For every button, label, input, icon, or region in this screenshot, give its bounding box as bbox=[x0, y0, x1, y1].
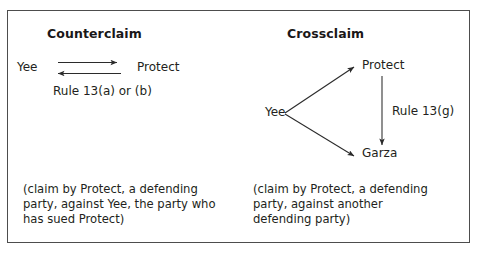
edge-label-rule-13a-or-b: Rule 13(a) or (b) bbox=[53, 84, 152, 98]
diagram-figure: Counterclaim Yee Protect Rule 13(a) or (… bbox=[0, 0, 480, 263]
caption-counterclaim: (claim by Protect, a defending party, ag… bbox=[23, 182, 238, 228]
node-label-protect-crossclaim: Protect bbox=[362, 58, 404, 72]
node-label-yee-crossclaim: Yee bbox=[265, 105, 286, 119]
node-label-yee-counterclaim: Yee bbox=[17, 60, 38, 74]
panel-title-crossclaim: Crossclaim bbox=[287, 26, 364, 41]
panel-title-counterclaim: Counterclaim bbox=[47, 26, 142, 41]
node-label-protect-counterclaim: Protect bbox=[137, 60, 179, 74]
edge-label-rule-13g: Rule 13(g) bbox=[392, 104, 454, 118]
caption-crossclaim: (claim by Protect, a defending party, ag… bbox=[253, 182, 453, 228]
node-label-garza-crossclaim: Garza bbox=[362, 146, 397, 160]
